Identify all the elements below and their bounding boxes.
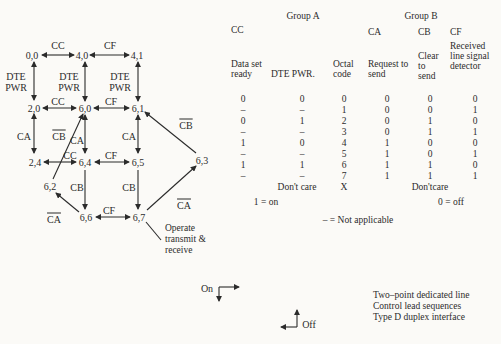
cell-cc: 1 [241,160,246,170]
cell-cb: 0 [428,138,433,148]
table-dont-care-row: Don't care X Don'tcare [0,182,501,193]
cell-cf: 1 [473,171,478,181]
dont-care-group-a: Don't care [278,182,317,192]
cell-ca: 1 [385,138,390,148]
column-code-cb: CB [418,27,431,37]
column-code-cc: CC [231,25,244,35]
cell-cc: – [241,149,246,159]
cell-cc: – [241,127,246,137]
state-node-6-7: 6,7 [133,212,146,223]
caption-line: Type D duplex interface [373,312,465,322]
cell-ca: 0 [385,116,390,126]
cell-ca: 1 [385,149,390,159]
table-row: – – 5 1 0 1 [0,149,501,160]
table-row: – – 1 0 0 1 [0,105,501,116]
edge-label-cf: CF [103,205,115,216]
legend-off-label: Off [302,319,316,330]
table-row: 1 0 4 1 0 0 [0,138,501,149]
cell-dte-pwr: – [300,127,305,137]
cell-ca: 0 [385,94,390,104]
cell-octal: 4 [342,138,347,148]
cell-cb: 1 [428,171,433,181]
cell-ca: 1 [385,171,390,181]
caption-line: Control lead sequences [373,301,461,311]
footnote-not-applicable: – = Not applicable [323,215,394,225]
cell-cb: 1 [428,160,433,170]
state-node-6-6: 6,6 [80,212,93,223]
cell-octal: 6 [342,160,347,170]
cell-cb: 0 [428,94,433,104]
cell-cb: 1 [428,127,433,137]
dont-care-group-b: Don'tcare [412,182,449,192]
cell-cf: 0 [473,94,478,104]
cell-ca: 1 [385,160,390,170]
cell-octal: 5 [342,149,347,159]
column-title-octal-code: Octal code [333,59,363,79]
table-group-b-header: Group B [405,11,438,21]
table-row: 0 1 2 0 1 0 [0,116,501,127]
footnote-one-on: 1 = on [254,197,278,207]
cell-octal: 0 [342,94,347,104]
cell-cf: 1 [473,105,478,115]
footnote-zero-off: 0 = off [438,197,464,207]
cell-cc: 0 [241,116,246,126]
note-pointer-line [146,222,161,240]
cell-ca: 0 [385,105,390,115]
legend-on-label: On [201,283,213,294]
cell-cf: 1 [473,127,478,137]
operate-note: Operate transmit & receive [165,223,217,256]
cell-dte-pwr: 1 [300,160,305,170]
cell-dte-pwr: – [300,149,305,159]
cell-cf: 0 [473,160,478,170]
cell-octal: 1 [342,105,347,115]
edge-label-dte-pwr: DTE PWR [104,72,136,93]
table-row: – – 3 0 1 1 [0,127,501,138]
table-row: 0 0 0 0 0 0 [0,94,501,105]
cell-cb: 0 [428,149,433,159]
table-row: 1 1 6 1 1 0 [0,160,501,171]
edge-label-cf: CF [104,40,116,51]
column-title-clear-to-send: Clear to send [418,51,444,81]
cell-cc: 1 [241,138,246,148]
cell-cc: – [241,105,246,115]
cell-cf: 1 [473,149,478,159]
cell-cf: 0 [473,138,478,148]
cell-cb: 0 [428,105,433,115]
edge-label-ca-not: CA [177,200,191,211]
cell-cc: – [241,171,246,181]
dont-care-octal: X [341,182,348,192]
legend-on-arrow [219,287,239,301]
column-code-cf: CF [450,27,462,37]
table-group-a-header: Group A [287,11,320,21]
cell-dte-pwr: – [300,105,305,115]
cell-cb: 1 [428,116,433,126]
cell-cf: 0 [473,116,478,126]
state-node-0-0: 0,0 [26,50,39,61]
cell-dte-pwr: 0 [300,138,305,148]
table-row: – – 7 1 1 1 [0,171,501,182]
column-code-ca: CA [368,27,381,37]
column-title-dte-pwr: DTE PWR. [271,69,315,79]
column-title-data-set-ready: Data set ready [231,59,273,79]
edge-label-dte-pwr: DTE PWR [53,72,85,93]
column-title-received-line-signal-detector: Received line signal detector [450,41,498,71]
cell-ca: 0 [385,127,390,137]
column-title-request-to-send: Request to send [368,59,410,79]
edge-label-dte-pwr: DTE PWR [0,72,32,93]
cell-octal: 7 [342,171,347,181]
cell-octal: 3 [342,127,347,137]
caption-line: Two–point dedicated line [373,290,469,300]
figure-canvas: 0,0 4,0 4,1 2,0 6,0 6,1 2,4 6,4 6,5 6,3 … [0,0,501,344]
cell-dte-pwr: – [300,171,305,181]
cell-dte-pwr: 0 [300,94,305,104]
edge-label-cc: CC [51,40,64,51]
state-node-4-1: 4,1 [131,50,144,61]
cell-octal: 2 [342,116,347,126]
edge-label-ca-not: CA [47,214,61,225]
cell-dte-pwr: 1 [300,116,305,126]
state-node-4-0: 4,0 [76,50,89,61]
cell-cc: 0 [241,94,246,104]
legend-off-arrow [281,310,297,327]
